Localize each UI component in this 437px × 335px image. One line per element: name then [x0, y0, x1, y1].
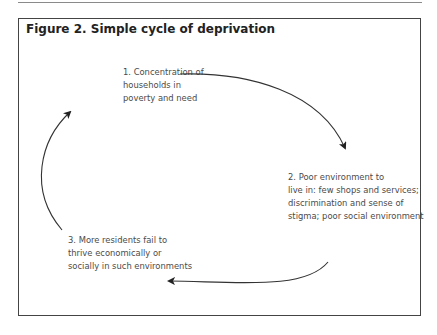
arrow-2-to-3: [169, 262, 328, 283]
arrow-3-to-1: [41, 112, 70, 230]
cycle-arrows: [0, 0, 437, 335]
arrow-1-to-2: [180, 74, 345, 148]
